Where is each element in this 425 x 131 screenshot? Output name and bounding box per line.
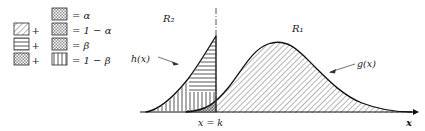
legend-plus-3: + xyxy=(32,55,40,66)
legend-row-beta: + = β xyxy=(14,38,90,51)
curve-label-gx: g(x) xyxy=(357,58,376,69)
figure-root: = α + = 1 − α + = β + = 1 − β xyxy=(0,0,425,131)
figure-svg: = α + = 1 − α + = β + = 1 − β xyxy=(0,0,425,131)
swatch-dotted xyxy=(52,23,67,35)
x-axis-label: x xyxy=(405,117,413,128)
legend-label-one-minus-alpha: = 1 − α xyxy=(72,25,112,36)
legend-label-beta: = β xyxy=(72,40,90,51)
legend-row-one-minus-beta: + = 1 − β xyxy=(14,53,111,66)
threshold-label: x = k xyxy=(198,117,223,128)
legend-row-one-minus-alpha: + = 1 − α xyxy=(14,23,112,36)
swatch-horizontal xyxy=(14,38,29,50)
curve-label-hx: h(x) xyxy=(131,53,150,64)
swatch-dotted xyxy=(14,53,29,65)
swatch-diagonal xyxy=(14,23,29,35)
region-label-R1: R₁ xyxy=(291,23,304,34)
swatch-dotted xyxy=(52,8,67,20)
legend-row-alpha: = α xyxy=(52,8,91,21)
region-label-R2: R₂ xyxy=(162,13,175,24)
legend-label-alpha: = α xyxy=(72,10,91,21)
swatch-vertical xyxy=(52,53,67,65)
legend-plus-2: + xyxy=(32,40,40,51)
legend-plus-1: + xyxy=(32,25,40,36)
swatch-dotted xyxy=(52,38,67,50)
legend-label-one-minus-beta: = 1 − β xyxy=(72,55,111,66)
